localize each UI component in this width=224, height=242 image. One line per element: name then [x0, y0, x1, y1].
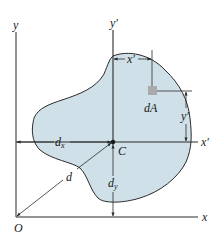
y-axis-label: y [12, 18, 19, 32]
x-prime-axis-label: x′ [200, 135, 209, 149]
dA-label: dA [144, 101, 158, 115]
origin-label: O [14, 221, 23, 235]
y-prime-dim-label: y′ [180, 109, 189, 123]
centroid-label: C [118, 144, 127, 158]
d-dimension-lower [17, 180, 63, 216]
parallel-axis-diagram: y x O y′ x′ dx dy d C dA x′ y′ [0, 0, 224, 242]
x-prime-dim-label: x′ [126, 52, 135, 66]
area-element-dA [148, 86, 157, 95]
d-label: d [66, 170, 73, 184]
y-prime-axis-label: y′ [109, 16, 118, 30]
centroid-point [111, 140, 116, 145]
x-axis-label: x [201, 210, 208, 224]
